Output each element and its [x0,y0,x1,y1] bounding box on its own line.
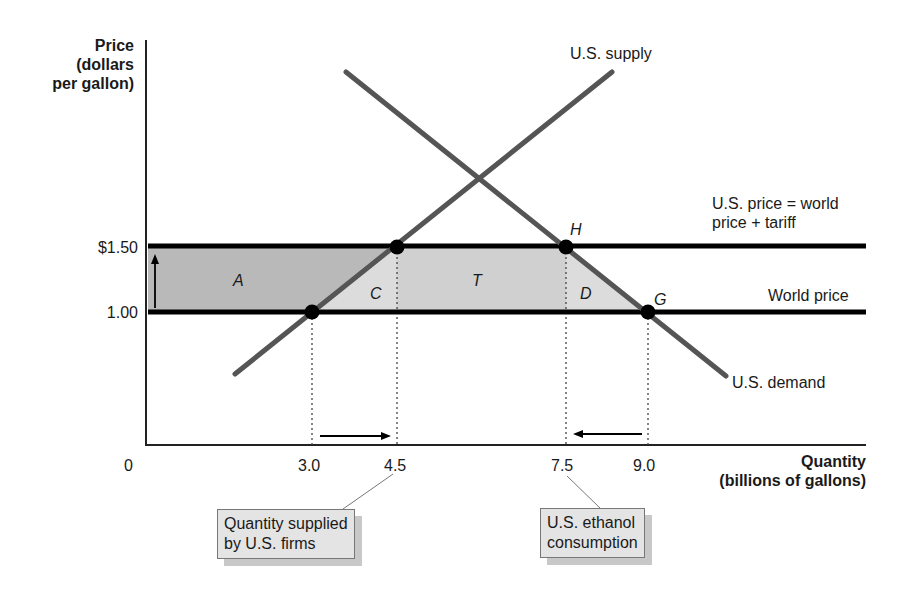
supply-label: U.S. supply [570,44,652,63]
point-supply-world [305,305,320,320]
y-tick-1-50: $1.50 [60,238,138,257]
point-g-label: G [654,290,666,309]
y-axis-label-line: per gallon) [30,74,134,93]
x-axis-label-line: Quantity [660,452,866,471]
point-h-label: H [570,220,582,239]
callout-leader-consumption [567,476,600,508]
x-tick-9-0: 9.0 [633,456,655,475]
x-axis-label-line: (billions of gallons) [660,471,866,490]
callout-ethanol-consumption: U.S. ethanol consumption [540,508,645,558]
point-h [559,240,574,255]
x-tick-origin: 0 [124,456,133,475]
area-c-label: C [370,284,382,303]
area-d-label: D [580,284,592,303]
y-axis-label-line: Price [30,36,134,55]
x-tick-4-5: 4.5 [384,456,406,475]
callout-line: by U.S. firms [224,534,348,554]
callout-line: consumption [547,533,638,553]
area-t-label: T [472,271,482,290]
world-price-label: World price [768,286,849,305]
supply-curve [235,72,612,374]
y-axis-label-line: (dollars [30,55,134,74]
callout-line: U.S. ethanol [547,513,638,533]
point-supply-tariff [390,240,405,255]
area-a-label: A [233,271,244,290]
callout-leader-supplied [343,474,393,509]
callout-quantity-supplied: Quantity supplied by U.S. firms [217,509,355,559]
callout-line: Quantity supplied [224,514,348,534]
y-axis-label: Price (dollars per gallon) [30,36,134,93]
x-tick-3-0: 3.0 [298,456,320,475]
x-tick-7-5: 7.5 [551,456,573,475]
supply-increase-arrow-icon [320,432,391,440]
demand-curve [346,72,726,376]
tariff-line-label-line: U.S. price = world [712,194,839,213]
tariff-line-label: U.S. price = world price + tariff [712,194,839,232]
y-tick-1-00: 1.00 [60,303,138,322]
consumption-decrease-arrow-icon [573,430,642,438]
tariff-line-label-line: price + tariff [712,213,839,232]
x-axis-label: Quantity (billions of gallons) [660,452,866,490]
demand-label: U.S. demand [732,373,825,392]
